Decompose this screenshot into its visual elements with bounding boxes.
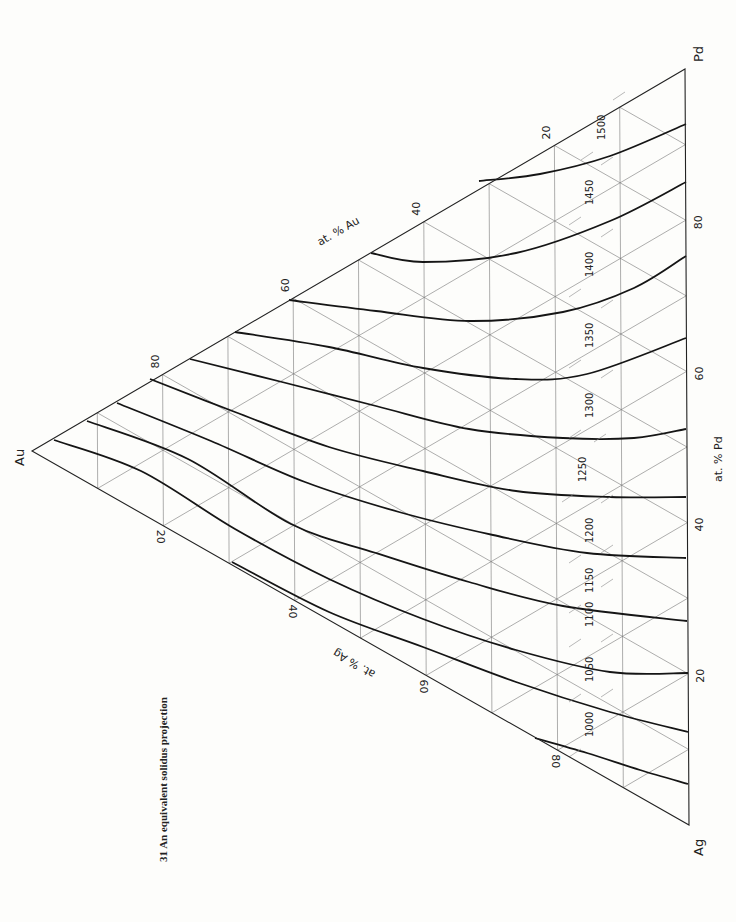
isotherm-1100 (54, 440, 688, 674)
isotherm-label: 1150 (584, 568, 595, 593)
label-leader (569, 360, 581, 368)
label-leader (613, 92, 625, 100)
grid-line-ag (98, 145, 686, 489)
label-leader (569, 217, 581, 225)
isotherm-1200 (117, 403, 686, 558)
vertex-label-au: Au (12, 449, 27, 466)
isotherm-label: 1250 (577, 457, 588, 482)
isotherm-label: 1300 (584, 393, 595, 418)
isotherm-labels: 1000105011001150120012501300135014001450… (577, 115, 607, 737)
grid-line-ag (229, 296, 686, 563)
isotherm-1150 (87, 421, 687, 621)
grid-line-pd (228, 336, 688, 598)
isotherm-1500 (479, 124, 686, 181)
isotherm-label: 1450 (584, 180, 595, 205)
tick-pd: 60 (693, 366, 706, 380)
composition-grid (97, 107, 688, 787)
vertex-label-ag: Ag (691, 839, 706, 856)
label-leader (569, 555, 581, 563)
axis-label-au: at. % Au (315, 214, 362, 249)
label-leader (581, 152, 593, 160)
tick-au: 80 (149, 355, 162, 369)
grid-line-au (489, 184, 492, 713)
label-leader (569, 639, 581, 647)
isotherm-1050 (232, 562, 688, 732)
vertex-label-pd: Pd (691, 46, 706, 62)
tick-au: 20 (540, 125, 553, 139)
isotherm-label: 1100 (584, 602, 595, 627)
isotherm-label: 1050 (584, 657, 595, 682)
label-leader (594, 434, 606, 442)
label-leader (601, 545, 613, 553)
tick-ag: 20 (154, 530, 167, 544)
tick-ag: 80 (549, 754, 562, 768)
grid-line-au (620, 107, 624, 787)
grid-line-au (359, 260, 361, 638)
tick-pd: 20 (694, 669, 707, 683)
label-leader (601, 634, 613, 642)
figure-caption: 31 An equivalent solidus projection (157, 697, 169, 862)
isotherm-label: 1200 (584, 518, 595, 543)
label-leader (569, 289, 581, 297)
label-leader (601, 689, 613, 697)
label-leader (601, 229, 613, 237)
isotherm-label: 1400 (584, 252, 595, 277)
label-leader (601, 370, 613, 378)
isotherm-1450 (371, 182, 686, 262)
label-leader (601, 579, 613, 587)
tick-pd: 40 (693, 518, 706, 532)
tick-ag: 40 (286, 605, 299, 619)
axis-label-pd: at. % Pd (712, 436, 725, 482)
axis-label-ag: at. % Ag (331, 646, 378, 681)
isotherm-1350 (235, 332, 686, 380)
tick-ag: 60 (417, 679, 430, 693)
tick-au: 60 (279, 278, 292, 292)
isotherm-label: 1500 (596, 115, 607, 140)
tick-pd: 80 (692, 215, 705, 229)
isotherm-label: 1350 (584, 323, 595, 348)
isotherm-label: 1000 (584, 712, 595, 737)
tick-au: 40 (410, 202, 423, 216)
grid-line-ag (163, 220, 685, 526)
grid-line-au (554, 145, 557, 750)
grid-line-pd (359, 260, 688, 447)
isotherm-curves (54, 124, 688, 784)
ternary-diagram: Au Pd Ag at. % Au at. % Pd at. % Ag 2020… (0, 0, 736, 922)
